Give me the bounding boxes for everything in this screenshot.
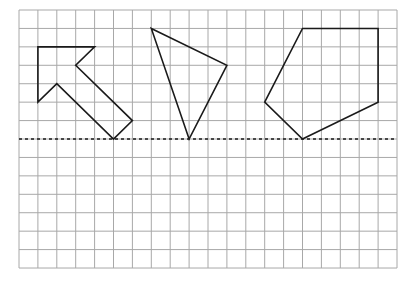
grid-diagram [0, 0, 409, 284]
arrow-shape [38, 47, 132, 139]
